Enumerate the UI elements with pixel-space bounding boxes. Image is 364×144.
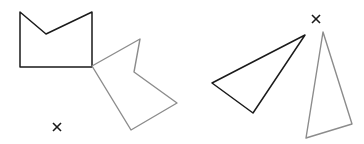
triangle-original [212,35,305,113]
pentagon-rotated [92,39,177,130]
triangle-rotated [306,32,352,138]
rotation-center-left-mark [53,123,61,131]
rotation-diagram [0,0,364,144]
pentagon-original [20,12,92,67]
rotation-center-right-mark [312,15,320,23]
